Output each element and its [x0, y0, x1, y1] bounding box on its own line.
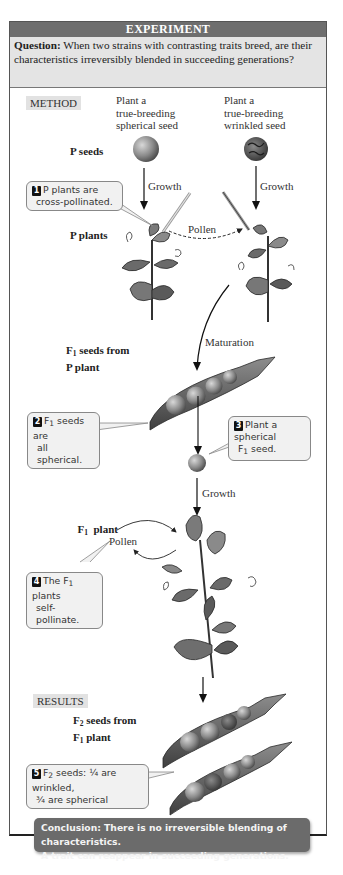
pollen-self-arrow-bottom [134, 550, 176, 559]
label-growth-f1: Growth [202, 487, 236, 500]
f1-plant-icon [162, 515, 256, 678]
maturation-arrow [197, 285, 229, 368]
label-growth-left: Growth [148, 180, 182, 193]
label-pollen-self: Pollen [109, 535, 137, 548]
callout-step-5: 5F2 seeds: ¼ are wrinkled, ¾ are spheric… [26, 764, 149, 809]
step-number-badge: 1 [32, 186, 41, 196]
callout-step-2: 2F1 seeds are all spherical. [27, 412, 100, 469]
label-p-plants: P plants [70, 229, 108, 242]
p-plant-wrinkled-icon [238, 225, 294, 322]
step-number-badge: 5 [32, 769, 41, 779]
wrinkled-seed-icon [204, 773, 222, 791]
step-number-badge: 3 [234, 421, 243, 431]
p-plant-spherical-icon [122, 224, 181, 320]
f1-seed-icon [188, 454, 206, 472]
label-f2-seeds: F2 seeds from F1 plant [73, 714, 136, 747]
callout-step-3: 3Plant a spherical F1 seed. [228, 416, 311, 461]
results-section-tag: RESULTS [33, 694, 88, 708]
pollen-self-arrow-top [117, 520, 176, 532]
spherical-seed-icon [133, 136, 159, 162]
label-p-seeds: P seeds [70, 145, 103, 158]
label-pollen-cross: Pollen [188, 223, 216, 236]
wrinkled-seed-icon [221, 714, 237, 730]
step-number-badge: 4 [32, 577, 41, 587]
method-section-tag: METHOD [26, 96, 81, 110]
right-column-header: Plant a true-breeding wrinkled seed [224, 94, 285, 132]
step-number-badge: 2 [33, 417, 42, 427]
label-maturation: Maturation [205, 336, 254, 349]
callout-step-4: 4The F1 plants self-pollinate. [26, 572, 103, 629]
label-f1-seeds: F1 seeds from P plant [66, 344, 129, 373]
conclusion-box: Conclusion: There is no irreversible ble… [34, 818, 310, 852]
callout-step-1: 1P plants are cross-pollinated. [26, 181, 123, 211]
wrinkled-seed-icon [244, 137, 268, 161]
left-column-header: Plant a true-breeding spherical seed [116, 94, 178, 132]
label-growth-right: Growth [260, 180, 294, 193]
